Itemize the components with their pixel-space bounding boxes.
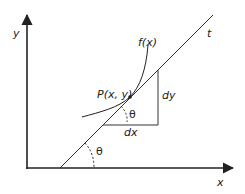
point-label: P(x, y) <box>97 88 132 101</box>
y-axis-label: y <box>12 27 20 40</box>
tangent-label: t <box>207 27 212 40</box>
dy-label: dy <box>162 89 176 102</box>
x-axis-label: x <box>216 176 224 189</box>
tangent-diagram: y x t f(x) P(x, y) dy dx θ θ <box>0 0 245 194</box>
theta-arc-lower <box>85 143 94 167</box>
function-label: f(x) <box>138 36 157 49</box>
dx-label: dx <box>124 126 138 139</box>
theta-lower-label: θ <box>96 145 103 158</box>
tangent-line <box>60 15 213 168</box>
theta-upper-label: θ <box>129 108 136 121</box>
theta-arc-upper <box>121 106 127 122</box>
function-curve <box>82 45 148 117</box>
